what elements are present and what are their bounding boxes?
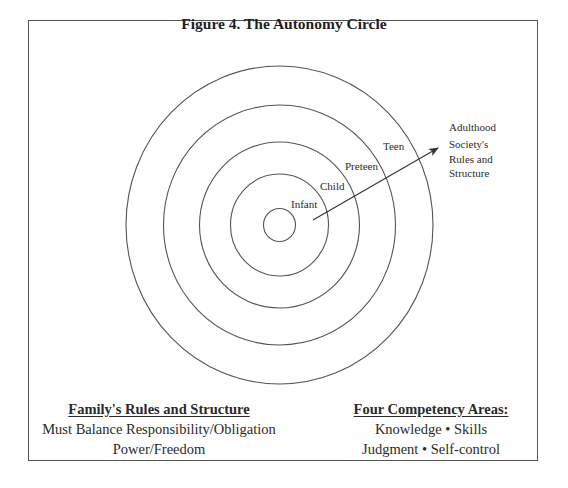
ring-infant xyxy=(264,209,296,242)
competency-line1: Knowledge • Skills xyxy=(345,419,517,439)
family-rules-line2: Power/Freedom xyxy=(38,439,280,459)
competency-heading: Four Competency Areas: xyxy=(345,399,517,419)
label-society-line1: Society's xyxy=(449,139,488,150)
family-rules-heading: Family's Rules and Structure xyxy=(38,399,280,419)
competency-line2: Judgment • Self-control xyxy=(345,439,517,459)
ring-child xyxy=(231,174,329,276)
competency-block: Four Competency Areas: Knowledge • Skill… xyxy=(345,399,517,459)
label-teen: Teen xyxy=(383,141,404,152)
label-adulthood: Adulthood xyxy=(449,122,496,133)
family-rules-block: Family's Rules and Structure Must Balanc… xyxy=(38,399,280,459)
family-rules-line1: Must Balance Responsibility/Obligation xyxy=(38,419,280,439)
ring-adulthood xyxy=(126,66,433,384)
label-society-line3: Structure xyxy=(449,168,489,179)
ring-teen xyxy=(164,105,396,345)
label-infant: Infant xyxy=(291,199,317,210)
label-child: Child xyxy=(320,181,344,192)
label-society-line2: Rules and xyxy=(449,154,493,165)
ring-preteen xyxy=(200,142,360,308)
label-preteen: Preteen xyxy=(345,161,378,172)
